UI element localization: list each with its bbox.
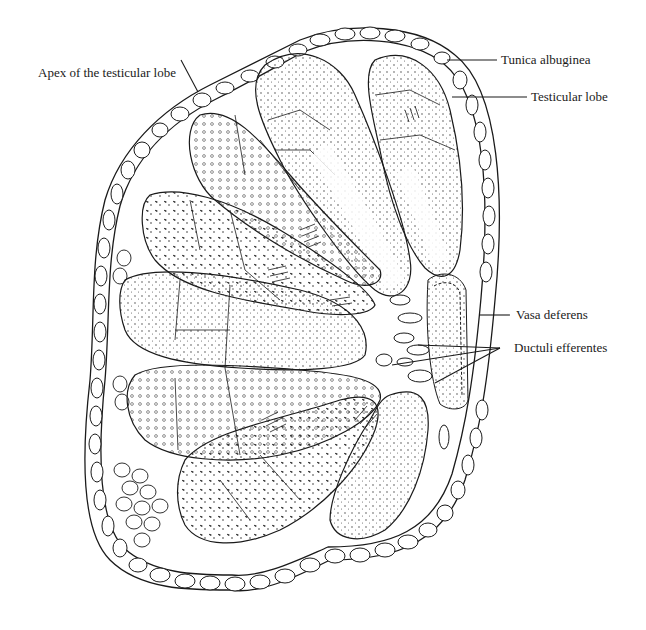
diagram-figure: Apex of the testicular lobe Tunica albug… bbox=[0, 0, 646, 630]
label-ductuli-efferentes: Ductuli efferentes bbox=[514, 341, 607, 354]
label-vasa-deferens: Vasa deferens bbox=[516, 308, 588, 321]
label-tunica-albuginea: Tunica albuginea bbox=[501, 53, 590, 66]
label-apex-of-testicular-lobe: Apex of the testicular lobe bbox=[38, 66, 176, 79]
label-testicular-lobe: Testicular lobe bbox=[531, 90, 608, 103]
